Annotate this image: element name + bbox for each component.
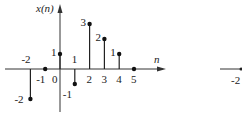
x-tick-label: 1: [72, 53, 78, 65]
value-label: 2: [95, 31, 101, 43]
x-tick-label: -2: [21, 53, 30, 65]
value-label: 1: [51, 46, 57, 58]
value-label: 1: [110, 46, 116, 58]
partial-stem-dot: [240, 68, 243, 71]
x-axis-arrow-icon: [157, 67, 166, 72]
x-tick-label: 3: [101, 73, 107, 85]
x-tick-label: 4: [116, 73, 122, 85]
stem-dot: [28, 97, 32, 101]
x-tick-label: -1: [36, 73, 45, 85]
stem-dot: [102, 37, 106, 41]
stem-dot: [132, 67, 136, 71]
value-label: -2: [14, 93, 23, 105]
stem-dot: [87, 22, 91, 26]
y-axis-arrow-icon: [58, 4, 63, 13]
partial-tick-label: -2: [231, 74, 240, 86]
stems: [28, 22, 136, 101]
x-axis-label: n: [154, 53, 160, 65]
stem-dot: [73, 82, 77, 86]
value-label: -1: [63, 88, 72, 100]
stem-dot: [58, 52, 62, 56]
x-tick-label: 2: [87, 73, 93, 85]
x-tick-label: 5: [131, 73, 137, 85]
value-label: 3: [81, 16, 87, 28]
stem-dot: [117, 52, 121, 56]
x-tick-label: 0: [52, 73, 58, 85]
stem-dot: [43, 67, 47, 71]
stem-plot: x(n) n -2-2-1011-12332415 -2: [0, 0, 242, 115]
y-axis-label: x(n): [35, 2, 54, 15]
